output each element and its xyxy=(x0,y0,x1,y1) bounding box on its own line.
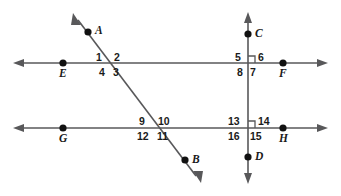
point-B-dot xyxy=(181,156,188,163)
line-AB-upper-arrowhead xyxy=(71,13,81,25)
point-C-dot xyxy=(244,30,251,37)
angle-label-6: 6 xyxy=(258,52,264,63)
point-label-E: E xyxy=(59,68,67,80)
angle-label-16: 16 xyxy=(228,131,240,142)
line-EF-right-arrowhead xyxy=(317,59,328,67)
point-H-dot xyxy=(279,124,286,131)
point-label-D: D xyxy=(255,151,263,163)
angle-label-4: 4 xyxy=(99,67,105,78)
angle-label-13: 13 xyxy=(228,116,240,127)
point-E-dot xyxy=(59,59,66,66)
geometry-diagram: A B C D E F G H 1 2 3 4 5 6 7 8 9 10 11 … xyxy=(0,0,341,196)
angle-label-15: 15 xyxy=(250,131,262,142)
angle-label-3: 3 xyxy=(113,67,119,78)
angle-label-11: 11 xyxy=(157,131,168,142)
line-AB-lower-arrowhead xyxy=(193,171,203,183)
angle-label-7: 7 xyxy=(250,67,256,78)
angle-label-10: 10 xyxy=(158,116,170,127)
point-label-B: B xyxy=(192,154,200,166)
line-AB-segment xyxy=(78,20,196,176)
diagram-canvas xyxy=(0,0,341,196)
line-CD-lower-arrowhead xyxy=(244,173,252,184)
angle-label-5: 5 xyxy=(235,52,241,63)
point-A-dot xyxy=(84,28,91,35)
angle-label-2: 2 xyxy=(114,52,120,63)
line-GH-left-arrowhead xyxy=(13,124,24,132)
angle-label-12: 12 xyxy=(137,131,149,142)
right-angle-marker-bottom xyxy=(248,121,255,128)
point-label-F: F xyxy=(279,68,287,80)
point-G-dot xyxy=(59,124,66,131)
point-label-H: H xyxy=(279,133,288,145)
right-angle-marker-top xyxy=(248,56,255,63)
angle-label-14: 14 xyxy=(258,116,270,127)
line-GH-right-arrowhead xyxy=(317,124,328,132)
point-label-G: G xyxy=(59,133,67,145)
point-label-A: A xyxy=(95,25,103,37)
point-D-dot xyxy=(244,153,251,160)
angle-label-1: 1 xyxy=(96,52,102,63)
line-EF-left-arrowhead xyxy=(13,59,24,67)
point-label-C: C xyxy=(255,28,263,40)
angle-label-9: 9 xyxy=(139,116,145,127)
point-F-dot xyxy=(279,59,286,66)
angle-label-8: 8 xyxy=(237,67,243,78)
line-CD-upper-arrowhead xyxy=(244,12,252,23)
